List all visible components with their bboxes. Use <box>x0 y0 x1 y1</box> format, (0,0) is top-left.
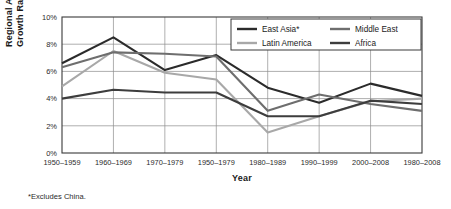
chart-footnote: *Excludes China. <box>28 192 86 201</box>
y-axis-tick-label: 0% <box>46 149 57 158</box>
y-axis-tick-label: 10% <box>42 13 57 22</box>
legend-label: East Asia* <box>262 25 300 34</box>
y-axis-title: Regional Average GDP Growth Rates <box>4 0 25 47</box>
x-axis-tick-label: 1990–1999 <box>301 158 338 167</box>
legend-label: Middle East <box>355 25 399 34</box>
x-axis-title: Year <box>232 173 252 183</box>
y-axis-tick-label: 4% <box>46 94 57 103</box>
legend-box <box>231 19 421 50</box>
y-axis-title-line-1: Regional Average GDP <box>4 0 14 47</box>
x-axis-tick-label: 1960–1969 <box>95 158 132 167</box>
x-axis-tick-label: 1980–1989 <box>249 158 286 167</box>
x-axis-tick-label: 2000–2008 <box>352 158 389 167</box>
gdp-growth-line-chart: Regional Average GDP Growth Rates 0%2%4%… <box>0 0 451 209</box>
chart-legend: East Asia*Middle EastLatin AmericaAfrica <box>231 19 421 50</box>
x-axis-tick-label: 1950–1979 <box>198 158 235 167</box>
x-axis-tick-label: 1970–1979 <box>146 158 183 167</box>
legend-label: Latin America <box>262 39 312 48</box>
x-axis-tick-label: 1950–1959 <box>44 158 81 167</box>
y-axis-tick-label: 6% <box>46 67 57 76</box>
x-axis-tick-label: 1980–2008 <box>404 158 441 167</box>
legend-label: Africa <box>355 39 376 48</box>
y-axis-title-line-2: Growth Rates <box>15 0 25 47</box>
y-axis-tick-label: 2% <box>46 122 57 131</box>
y-axis-tick-label: 8% <box>46 40 57 49</box>
